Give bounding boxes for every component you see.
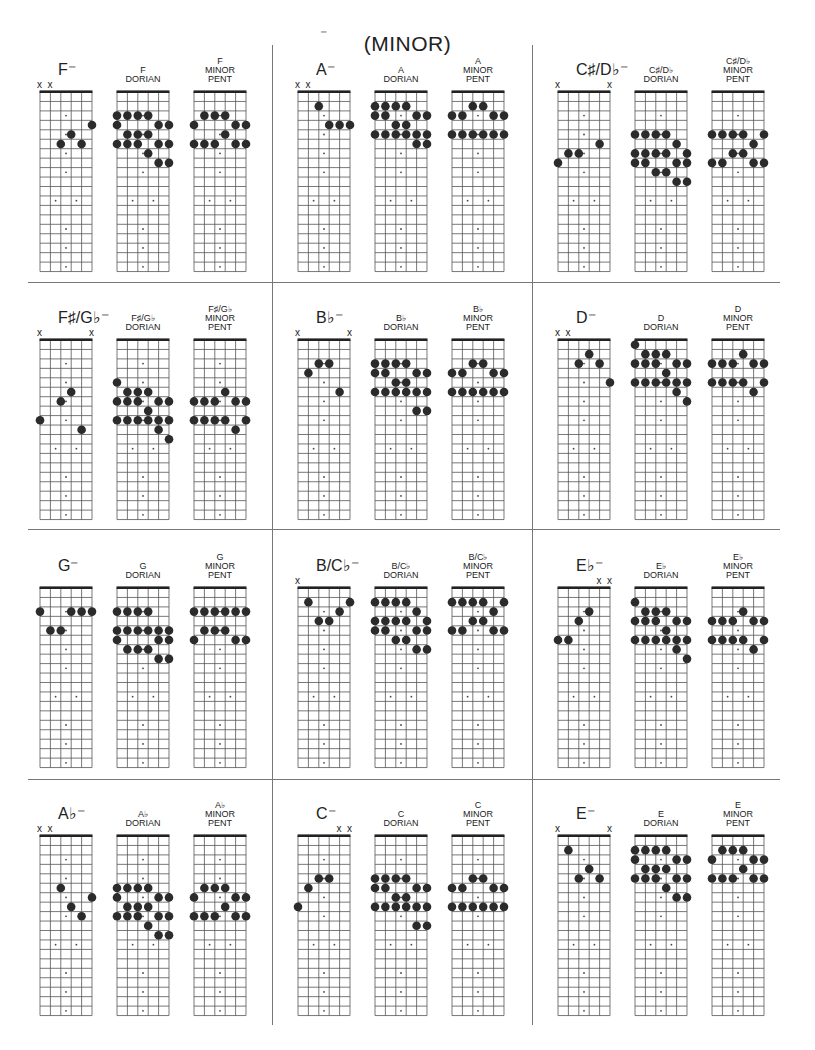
finger-dot	[469, 617, 478, 626]
finger-dot	[412, 903, 421, 912]
finger-dot	[739, 378, 748, 387]
finger-dot	[631, 617, 640, 626]
nut	[298, 90, 351, 93]
finger-dot	[325, 121, 334, 130]
fret-marker	[583, 611, 585, 613]
finger-dot	[652, 359, 661, 368]
finger-dot	[479, 130, 488, 139]
dorian-scale-diagram	[111, 90, 175, 274]
fret-marker	[583, 134, 585, 136]
fret-marker	[65, 743, 67, 745]
fret-marker	[323, 743, 325, 745]
fret-marker	[219, 859, 221, 861]
minor-pentatonic-diagram	[188, 90, 252, 274]
fret-marker	[660, 115, 662, 117]
finger-dot	[412, 607, 421, 616]
fret-marker	[477, 859, 479, 861]
finger-dot	[718, 130, 727, 139]
minor-pentatonic-diagram	[446, 834, 510, 1018]
minor-pent-label: B♭MINORPENT	[443, 305, 513, 332]
finger-dot	[67, 130, 76, 139]
finger-dot	[500, 111, 509, 120]
finger-dot	[412, 369, 421, 378]
fret-marker	[583, 878, 585, 880]
finger-dot	[749, 388, 758, 397]
fret-marker	[142, 897, 144, 899]
finger-dot	[708, 874, 717, 883]
fret-marker	[477, 171, 479, 173]
muted-string-mark: x	[555, 823, 560, 834]
finger-dot	[652, 149, 661, 158]
fret-marker	[583, 859, 585, 861]
nut	[117, 338, 170, 341]
finger-dot	[458, 626, 467, 635]
finger-dot	[402, 102, 411, 111]
muted-string-mark: x	[89, 327, 94, 338]
finger-dot	[683, 655, 692, 664]
fret-marker	[142, 991, 144, 993]
fret-marker	[65, 171, 67, 173]
chord-diagram	[34, 338, 98, 522]
finger-dot	[672, 636, 681, 645]
finger-dot	[595, 140, 604, 149]
finger-dot	[672, 893, 681, 902]
fret-marker	[142, 495, 144, 497]
finger-dot	[479, 102, 488, 111]
finger-dot	[448, 903, 457, 912]
finger-dot	[448, 111, 457, 120]
fret-marker	[400, 859, 402, 861]
fret-marker	[737, 611, 739, 613]
fret-marker	[209, 448, 211, 450]
fret-marker	[660, 878, 662, 880]
fret-marker	[400, 247, 402, 249]
finger-dot	[760, 636, 769, 645]
finger-dot	[718, 617, 727, 626]
fret-marker	[65, 419, 67, 421]
fret-marker	[219, 266, 221, 268]
finger-dot	[641, 359, 650, 368]
finger-dot	[423, 903, 432, 912]
nut	[40, 90, 93, 93]
fret-marker	[737, 1010, 739, 1012]
finger-dot	[458, 369, 467, 378]
finger-dot	[641, 865, 650, 874]
finger-dot	[144, 903, 153, 912]
finger-dot	[221, 130, 230, 139]
fret-marker	[229, 696, 231, 698]
fret-marker	[477, 134, 479, 136]
fret-marker	[737, 134, 739, 136]
finger-dot	[221, 416, 230, 425]
finger-dot	[231, 397, 240, 406]
fret-marker	[660, 649, 662, 651]
nut	[558, 338, 611, 341]
finger-dot	[165, 655, 174, 664]
fret-marker	[747, 448, 749, 450]
finger-dot	[190, 397, 199, 406]
fret-marker	[650, 944, 652, 946]
fret-marker	[477, 915, 479, 917]
finger-dot	[381, 874, 390, 883]
fret-marker	[323, 972, 325, 974]
fret-marker	[323, 878, 325, 880]
fret-marker	[477, 611, 479, 613]
fret-marker	[219, 915, 221, 917]
fret-marker	[737, 115, 739, 117]
fret-marker	[660, 401, 662, 403]
finger-dot	[641, 874, 650, 883]
fret-marker	[583, 762, 585, 764]
finger-dot	[200, 912, 209, 921]
finger-dot	[662, 350, 671, 359]
dorian-label: GDORIAN	[108, 562, 178, 580]
finger-dot	[672, 388, 681, 397]
fret-marker	[65, 630, 67, 632]
finger-dot	[221, 626, 230, 635]
finger-dot	[165, 912, 174, 921]
finger-dot	[458, 388, 467, 397]
finger-dot	[88, 893, 97, 902]
finger-dot	[231, 893, 240, 902]
fret-marker	[583, 382, 585, 384]
finger-dot	[325, 874, 334, 883]
fret-marker	[477, 724, 479, 726]
fret-marker	[660, 495, 662, 497]
finger-dot	[729, 378, 738, 387]
